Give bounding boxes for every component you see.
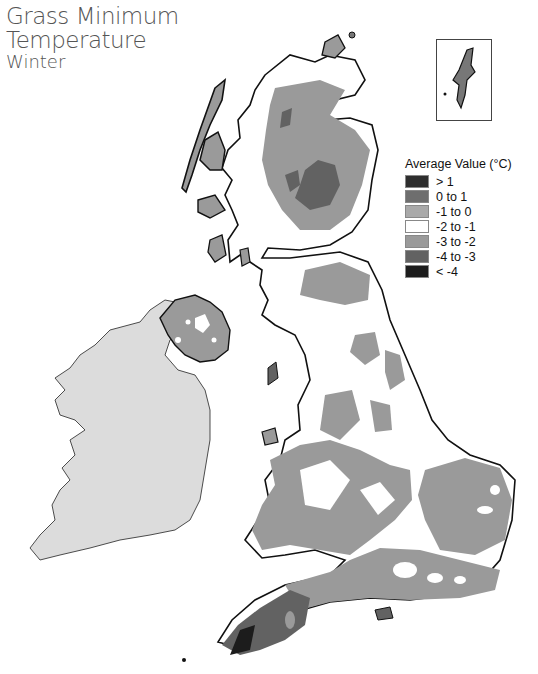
legend-swatch: [405, 205, 429, 218]
legend-item: -1 to 0: [405, 204, 512, 219]
legend-swatch: [405, 220, 429, 233]
legend-item: 0 to 1: [405, 189, 512, 204]
northern-ireland: [160, 295, 230, 362]
legend-title: Average Value (°C): [405, 157, 512, 171]
isle-of-man: [268, 362, 278, 385]
legend-label: -1 to 0: [436, 205, 471, 219]
legend-label: > 1: [436, 175, 454, 189]
legend-swatch: [405, 265, 429, 278]
anglesey: [262, 428, 278, 445]
shetland-inset: [436, 39, 492, 121]
legend-swatch: [405, 235, 429, 248]
legend-swatch: [405, 190, 429, 203]
legend-item: > 1: [405, 174, 512, 189]
orkney: [322, 35, 345, 58]
legend-label: -2 to -1: [436, 220, 476, 234]
legend-label: 0 to 1: [436, 190, 467, 204]
isle-of-wight: [375, 607, 393, 620]
mull: [198, 195, 225, 218]
legend-item: -2 to -1: [405, 219, 512, 234]
legend-item: -4 to -3: [405, 249, 512, 264]
legend: Average Value (°C) > 10 to 1-1 to 0-2 to…: [405, 157, 512, 279]
legend-label: -4 to -3: [436, 250, 476, 264]
islay: [208, 235, 226, 262]
legend-item: -3 to -2: [405, 234, 512, 249]
legend-item: < -4: [405, 264, 512, 279]
legend-swatch: [405, 250, 429, 263]
legend-label: -3 to -2: [436, 235, 476, 249]
legend-swatch: [405, 175, 429, 188]
arran: [240, 248, 250, 266]
shetland-islands: [437, 40, 491, 120]
legend-label: < -4: [436, 265, 458, 279]
